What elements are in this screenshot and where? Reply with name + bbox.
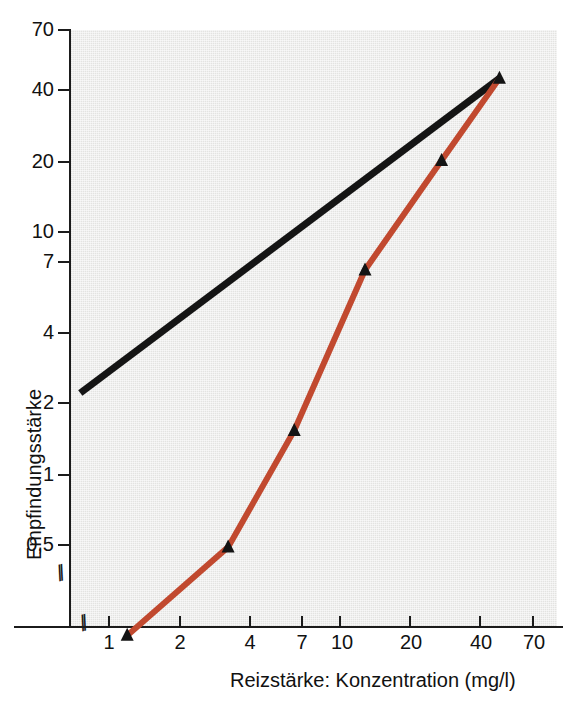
y-axis-tick (58, 332, 70, 334)
x-axis-tick-label: 4 (244, 631, 255, 654)
x-axis-tick (479, 616, 481, 627)
y-axis-tick-label: 20 (4, 150, 54, 173)
x-axis-tick (249, 616, 251, 627)
plot-area (70, 30, 557, 627)
x-axis-tick-label: 20 (400, 631, 422, 654)
y-axis-tick (58, 89, 70, 91)
y-axis-tick-label: 40 (4, 78, 54, 101)
y-axis-break-icon: // (54, 563, 65, 585)
x-axis-tick (108, 616, 110, 627)
y-axis-tick (58, 474, 70, 476)
y-axis-tick-label: 10 (4, 220, 54, 243)
x-axis-tick-label: 7 (296, 631, 307, 654)
chart-figure: 70 40 20 10 7 4 2 1 0,5 1 2 4 7 10 20 40… (0, 0, 579, 707)
y-axis-tick (58, 231, 70, 233)
y-axis-tick (58, 261, 70, 263)
x-axis-tick (532, 616, 534, 627)
x-axis-tick-label: 40 (470, 631, 492, 654)
y-axis-tick-label: 4 (4, 321, 54, 344)
y-axis-tick (58, 29, 70, 31)
y-axis-tick (58, 544, 70, 546)
x-axis-tick (301, 616, 303, 627)
x-axis-tick (179, 616, 181, 627)
y-axis-tick-label: 70 (4, 18, 54, 41)
y-axis-tick (58, 402, 70, 404)
y-axis-line (69, 29, 71, 628)
x-axis-tick (409, 616, 411, 627)
x-axis-tick-label: 1 (103, 631, 114, 654)
y-axis-tick-label: 7 (4, 250, 54, 273)
x-axis-tick-label: 70 (523, 631, 545, 654)
x-axis-tick-label: 10 (331, 631, 353, 654)
data-point-marker (121, 628, 134, 641)
x-axis-title: Reizstärke: Konzentration (mg/l) (230, 669, 516, 692)
x-axis-tick (339, 616, 341, 627)
y-axis-title: Empfindungsstärke (23, 345, 46, 605)
y-axis-tick (58, 161, 70, 163)
x-axis-tick-label: 2 (174, 631, 185, 654)
